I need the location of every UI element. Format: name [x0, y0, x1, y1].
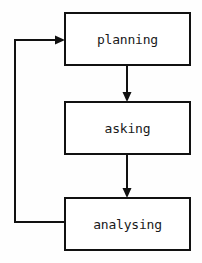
flowchart-diagram: planning asking analysing — [0, 0, 202, 263]
node-planning[interactable]: planning — [65, 13, 190, 65]
arrowhead-icon-analysing-planning — [55, 36, 65, 45]
node-analysing[interactable]: analysing — [65, 198, 190, 250]
edge-line-analysing-planning-loop — [15, 40, 65, 222]
arrowhead-icon-asking-analysing — [123, 188, 132, 198]
arrowhead-icon-planning-asking — [123, 92, 132, 102]
node-analysing-label: analysing — [93, 217, 162, 232]
edge-asking-to-analysing — [123, 154, 132, 198]
node-asking[interactable]: asking — [65, 102, 190, 154]
node-planning-label: planning — [97, 32, 158, 47]
node-asking-label: asking — [105, 121, 151, 136]
diagram-canvas: planning asking analysing — [0, 0, 202, 263]
edge-analysing-to-planning — [15, 36, 65, 223]
edge-planning-to-asking — [123, 65, 132, 102]
